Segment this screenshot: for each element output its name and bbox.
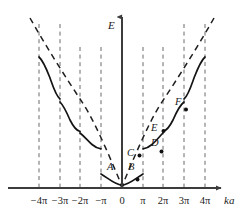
axes <box>8 17 221 188</box>
band-structure-figure: E ka −4π −3π −2π −π 0 π 2π 3π 4π A B C D… <box>0 0 250 218</box>
x-axis-label: ka <box>224 195 234 206</box>
x-tick-label-minus-pi: −π <box>89 196 113 207</box>
point-label-F: F <box>175 97 181 108</box>
y-axis-label: E <box>108 20 115 31</box>
point-marker-D <box>160 150 164 154</box>
point-label-A: A <box>107 162 113 173</box>
point-label-D: D <box>151 138 159 149</box>
x-tick-label-4pi: 4π <box>192 196 218 207</box>
point-label-B: B <box>128 162 134 173</box>
point-marker-B <box>136 178 140 182</box>
point-label-E: E <box>151 123 157 134</box>
band-curve-3-left <box>60 102 80 132</box>
point-marker-E <box>162 129 166 133</box>
x-tick-label-zero: 0 <box>112 196 132 207</box>
plot-canvas <box>0 0 250 218</box>
point-marker-C <box>138 154 142 158</box>
band-curve-2-left <box>80 133 101 149</box>
point-marker-F <box>184 108 188 112</box>
point-label-C: C <box>127 148 134 159</box>
